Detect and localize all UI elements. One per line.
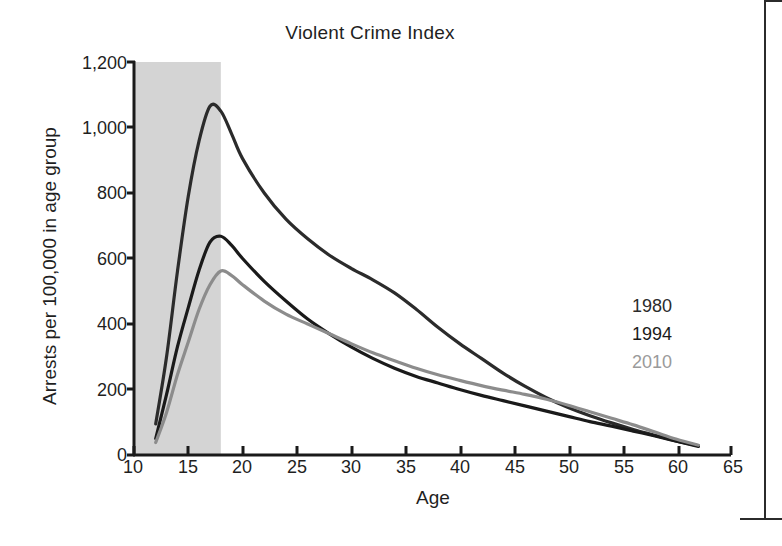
series-line-1994 bbox=[156, 236, 699, 446]
legend-item-2010: 2010 bbox=[632, 348, 672, 376]
legend-label: 1994 bbox=[632, 324, 672, 344]
shaded-juvenile-band bbox=[134, 62, 221, 455]
legend-item-1980: 1980 bbox=[632, 292, 672, 320]
plot-area bbox=[0, 0, 782, 546]
legend-label: 1980 bbox=[632, 296, 672, 316]
series-lines bbox=[156, 104, 699, 446]
chart-page: Violent Crime Index Arrests per 100,000 … bbox=[0, 0, 782, 546]
legend-item-1994: 1994 bbox=[632, 320, 672, 348]
legend: 1980 1994 2010 bbox=[632, 292, 672, 376]
series-line-1980 bbox=[156, 104, 699, 446]
legend-label: 2010 bbox=[632, 352, 672, 372]
series-line-2010 bbox=[156, 271, 699, 446]
